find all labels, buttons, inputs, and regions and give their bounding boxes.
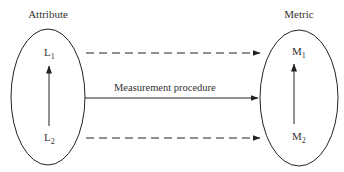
attribute-l1-label: L1 [44,46,55,61]
attribute-metric-diagram: Attribute Metric L1 L2 M1 M2 Measurement… [0,0,344,172]
metric-m2-label: M2 [292,130,306,145]
metric-m1-label: M1 [292,45,306,60]
measurement-procedure-label: Measurement procedure [114,82,216,93]
metric-title: Metric [284,8,313,20]
attribute-l2-label: L2 [44,131,55,146]
attribute-title: Attribute [28,8,68,20]
